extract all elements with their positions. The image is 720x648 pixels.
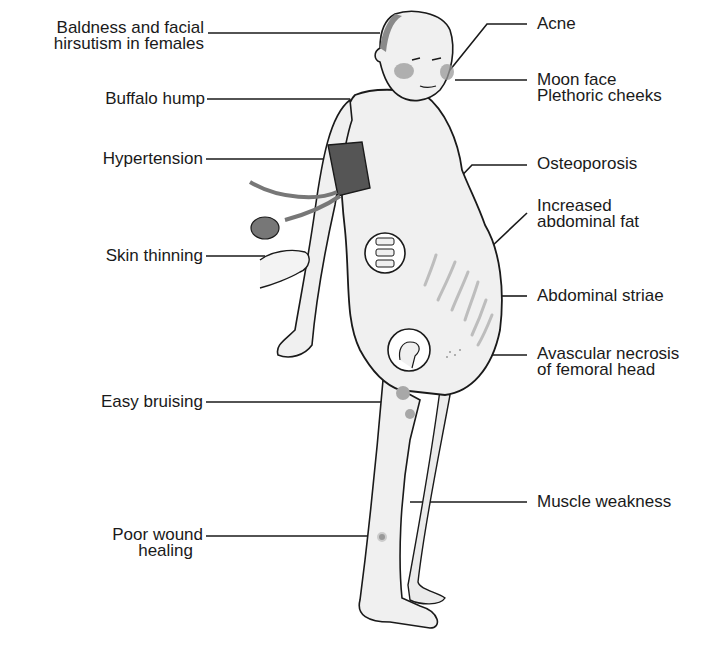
label-line: Acne xyxy=(537,16,576,32)
label-acne: Acne xyxy=(537,16,576,32)
label-line: Skin thinning xyxy=(12,248,203,264)
label-abdominal-striae: Abdominal striae xyxy=(537,288,664,304)
label-hypertension: Hypertension xyxy=(12,151,203,167)
label-poor-wound-healing: Poor wound healing xyxy=(12,527,203,559)
label-skin-thinning: Skin thinning xyxy=(12,248,203,264)
label-line: hirsutism in females xyxy=(12,36,204,52)
label-avascular-necrosis: Avascular necrosis of femoral head xyxy=(537,346,679,378)
label-line: Plethoric cheeks xyxy=(537,88,662,104)
label-line: Buffalo hump xyxy=(12,91,205,107)
label-line: healing xyxy=(12,543,203,559)
label-abdominal-fat: Increased abdominal fat xyxy=(537,198,639,230)
label-line: abdominal fat xyxy=(537,214,639,230)
label-line: Hypertension xyxy=(12,151,203,167)
label-line: Easy bruising xyxy=(12,394,203,410)
label-buffalo-hump: Buffalo hump xyxy=(12,91,205,107)
label-line: of femoral head xyxy=(537,362,679,378)
label-osteoporosis: Osteoporosis xyxy=(537,156,637,172)
label-easy-bruising: Easy bruising xyxy=(12,394,203,410)
label-line: Osteoporosis xyxy=(537,156,637,172)
label-line: Muscle weakness xyxy=(537,494,671,510)
label-baldness-hirsutism: Baldness and facial hirsutism in females xyxy=(12,20,204,52)
label-line: Abdominal striae xyxy=(537,288,664,304)
label-moon-face: Moon face Plethoric cheeks xyxy=(537,72,662,104)
label-muscle-weakness: Muscle weakness xyxy=(537,494,671,510)
